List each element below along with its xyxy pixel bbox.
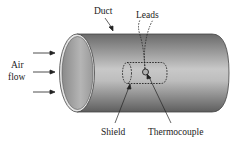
arrow-icon [50,70,55,74]
air-label: Air [11,60,25,70]
duct-label: Duct [94,6,113,16]
thermocouple-label: Thermocouple [148,127,203,137]
thermocouple-bead [143,69,149,75]
arrow-icon [50,90,55,94]
flow-label: flow [8,72,26,82]
shield-label: Shield [101,127,126,137]
arrow-icon [50,51,55,55]
leads-label: Leads [136,10,159,20]
thermocouple-duct-diagram: Duct Leads Air flow Shield Thermocouple [0,0,239,148]
arrow-icon [109,26,113,31]
air-flow-arrows [33,51,55,94]
